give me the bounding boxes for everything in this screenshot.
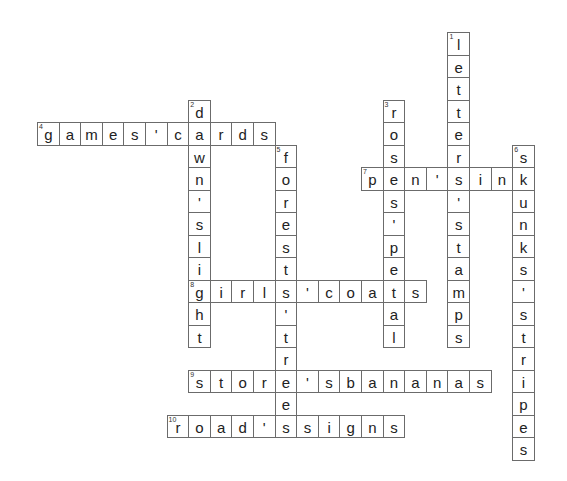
crossword-cell[interactable]: e [512, 415, 535, 439]
crossword-cell[interactable]: a [361, 370, 384, 394]
crossword-cell[interactable]: 7p [361, 167, 384, 191]
crossword-cell[interactable]: a [447, 257, 470, 281]
crossword-cell[interactable]: e [383, 167, 406, 191]
crossword-cell[interactable]: o [188, 415, 211, 439]
crossword-cell[interactable]: o [275, 167, 298, 191]
crossword-cell[interactable]: s [383, 145, 406, 169]
crossword-cell[interactable]: s [512, 437, 535, 461]
crossword-cell[interactable]: t [188, 325, 211, 349]
crossword-cell[interactable]: 2d [188, 100, 211, 124]
crossword-cell[interactable]: i [188, 257, 211, 281]
crossword-cell[interactable]: b [339, 370, 362, 394]
crossword-cell[interactable]: a [383, 302, 406, 326]
crossword-cell[interactable]: l [253, 280, 276, 304]
crossword-cell[interactable]: c [318, 280, 341, 304]
crossword-cell[interactable]: e [383, 257, 406, 281]
crossword-cell[interactable]: ' [296, 280, 319, 304]
crossword-cell[interactable]: s [188, 212, 211, 236]
crossword-cell[interactable]: s [512, 257, 535, 281]
crossword-cell[interactable]: n [383, 370, 406, 394]
crossword-cell[interactable]: n [426, 370, 449, 394]
crossword-cell[interactable]: ' [296, 370, 319, 394]
crossword-cell[interactable]: s [275, 280, 298, 304]
crossword-cell[interactable]: i [469, 167, 492, 191]
crossword-cell[interactable]: o [383, 122, 406, 146]
crossword-cell[interactable]: n [512, 212, 535, 236]
crossword-cell[interactable]: d [231, 415, 254, 439]
crossword-cell[interactable]: i [210, 280, 233, 304]
crossword-cell[interactable]: n [188, 167, 211, 191]
crossword-cell[interactable]: t [383, 280, 406, 304]
crossword-cell[interactable]: r [447, 145, 470, 169]
crossword-cell[interactable]: o [339, 280, 362, 304]
crossword-cell[interactable]: 6s [512, 145, 535, 169]
crossword-cell[interactable]: a [210, 415, 233, 439]
crossword-cell[interactable]: r [275, 347, 298, 371]
crossword-cell[interactable]: ' [512, 280, 535, 304]
crossword-cell[interactable]: n [361, 415, 384, 439]
crossword-cell[interactable]: k [512, 235, 535, 259]
crossword-cell[interactable]: a [447, 370, 470, 394]
crossword-cell[interactable]: s [318, 370, 341, 394]
crossword-cell[interactable]: h [188, 302, 211, 326]
crossword-cell[interactable]: e [447, 55, 470, 79]
crossword-cell[interactable]: w [188, 145, 211, 169]
crossword-cell[interactable]: s [253, 122, 276, 146]
crossword-cell[interactable]: a [404, 370, 427, 394]
crossword-cell[interactable]: t [275, 325, 298, 349]
crossword-cell[interactable]: ' [253, 415, 276, 439]
crossword-cell[interactable]: r [275, 190, 298, 214]
crossword-cell[interactable]: s [383, 415, 406, 439]
crossword-cell[interactable]: l [188, 235, 211, 259]
crossword-cell[interactable]: r [253, 370, 276, 394]
crossword-cell[interactable]: e [447, 122, 470, 146]
crossword-cell[interactable]: a [188, 122, 211, 146]
crossword-cell[interactable]: 9s [188, 370, 211, 394]
crossword-cell[interactable]: ' [447, 190, 470, 214]
crossword-cell[interactable]: ' [145, 122, 168, 146]
crossword-cell[interactable]: m [80, 122, 103, 146]
crossword-cell[interactable]: s [275, 415, 298, 439]
crossword-cell[interactable]: 10r [167, 415, 190, 439]
crossword-cell[interactable]: p [383, 235, 406, 259]
crossword-cell[interactable]: e [102, 122, 125, 146]
crossword-cell[interactable]: c [167, 122, 190, 146]
crossword-cell[interactable]: ' [275, 302, 298, 326]
crossword-cell[interactable]: 1l [447, 32, 470, 56]
crossword-cell[interactable]: g [339, 415, 362, 439]
crossword-cell[interactable]: t [447, 235, 470, 259]
crossword-cell[interactable]: d [231, 122, 254, 146]
crossword-cell[interactable]: t [447, 100, 470, 124]
crossword-cell[interactable]: s [296, 415, 319, 439]
crossword-cell[interactable]: e [275, 392, 298, 416]
crossword-cell[interactable]: m [447, 280, 470, 304]
crossword-cell[interactable]: o [231, 370, 254, 394]
crossword-cell[interactable]: s [447, 212, 470, 236]
crossword-cell[interactable]: s [447, 167, 470, 191]
crossword-cell[interactable]: a [59, 122, 82, 146]
crossword-cell[interactable]: l [383, 325, 406, 349]
crossword-cell[interactable]: p [512, 392, 535, 416]
crossword-cell[interactable]: s [383, 190, 406, 214]
crossword-cell[interactable]: e [275, 370, 298, 394]
crossword-cell[interactable]: t [275, 257, 298, 281]
crossword-cell[interactable]: i [318, 415, 341, 439]
crossword-cell[interactable]: t [512, 325, 535, 349]
crossword-cell[interactable]: 3r [383, 100, 406, 124]
crossword-cell[interactable]: r [512, 347, 535, 371]
crossword-cell[interactable]: 5f [275, 145, 298, 169]
crossword-cell[interactable]: s [404, 280, 427, 304]
crossword-cell[interactable]: t [447, 77, 470, 101]
crossword-cell[interactable]: 4g [37, 122, 60, 146]
crossword-cell[interactable]: s [123, 122, 146, 146]
crossword-cell[interactable]: r [210, 122, 233, 146]
crossword-cell[interactable]: i [512, 370, 535, 394]
crossword-cell[interactable]: t [210, 370, 233, 394]
crossword-cell[interactable]: 8g [188, 280, 211, 304]
crossword-cell[interactable]: ' [426, 167, 449, 191]
crossword-cell[interactable]: n [404, 167, 427, 191]
crossword-cell[interactable]: e [275, 212, 298, 236]
crossword-cell[interactable]: ' [383, 212, 406, 236]
crossword-cell[interactable]: s [469, 370, 492, 394]
crossword-cell[interactable]: k [512, 167, 535, 191]
